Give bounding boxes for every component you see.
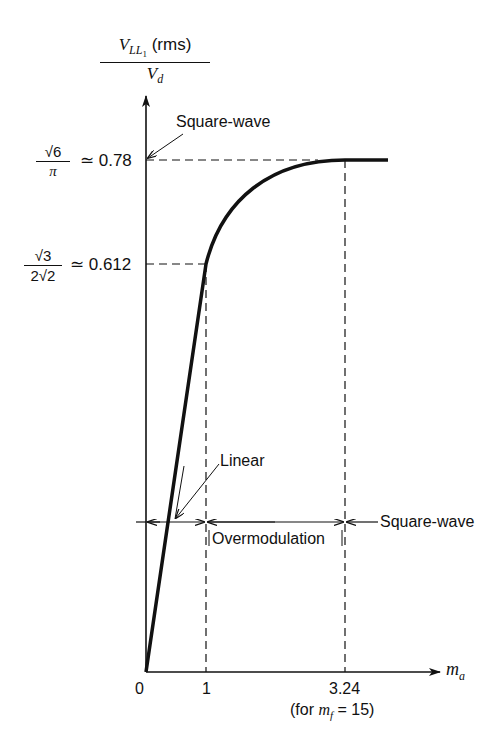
y-label-var: V [119, 35, 129, 54]
y-label-subsub: 1 [142, 50, 147, 60]
overmodulation-label: Overmodulation [212, 531, 325, 547]
level-078-num: √6 [36, 144, 70, 162]
note-suffix: = 15) [333, 701, 374, 718]
level-078-fraction: √6 π [36, 144, 70, 179]
square-wave-right-label: Square-wave [380, 514, 474, 530]
level-0612-fraction: √3 2√2 [24, 248, 62, 283]
x-label-sub: a [459, 669, 465, 683]
y-label-suffix: (rms) [152, 35, 192, 54]
mf-note: (for mf = 15) [290, 702, 374, 721]
note-var: m [318, 701, 330, 718]
linear-label: Linear [220, 453, 264, 469]
x-axis-label: ma [446, 660, 465, 682]
y-label-den-var: V [147, 64, 157, 83]
x-label-var: m [446, 659, 459, 679]
level-0612-num: √3 [24, 248, 62, 266]
y-axis-label: VLL1 (rms) Vd [100, 36, 210, 85]
level-0612-value: ≃ 0.612 [70, 256, 131, 273]
square-wave-top-label: Square-wave [176, 114, 270, 130]
level-078-value: ≃ 0.78 [80, 152, 132, 169]
characteristic-curve [146, 160, 388, 672]
plot-graphics [0, 0, 504, 738]
y-label-den-sub: d [157, 72, 163, 86]
x-tick-1: 1 [202, 681, 211, 697]
x-tick-324: 3.24 [329, 681, 360, 697]
x-tick-0: 0 [135, 681, 144, 697]
note-prefix: (for [290, 701, 318, 718]
y-label-sub: LL [129, 43, 142, 57]
level-0612-den: 2√2 [24, 266, 62, 283]
level-078-den: π [36, 162, 70, 179]
